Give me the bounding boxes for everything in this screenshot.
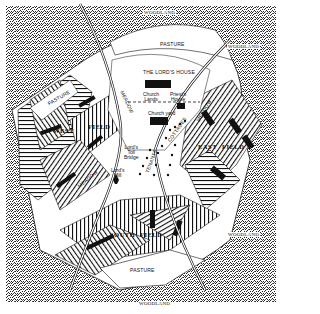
woodland-label-bottom: WOODLAND [138, 301, 171, 306]
woodland-label-bottom-right: WOODLAND [227, 232, 260, 237]
priests-house-label: Priest's House [170, 92, 186, 102]
south-field-label-2: FIELD [140, 232, 162, 239]
church-building [150, 117, 168, 125]
church-lands-label: Church Lands [143, 92, 159, 102]
south-field-label-1: SOUTH [110, 232, 135, 239]
lords-house-building [145, 80, 171, 88]
toll-bridge-label: Lord's Toll Bridge [124, 145, 138, 160]
priests-house-building [177, 103, 185, 109]
pasture-label-top: PASTURE [160, 42, 185, 47]
church-yard-label: Church yard [148, 111, 175, 116]
toll-bridge-line-3: Bridge [124, 155, 138, 160]
west-field-label-1: WEST [53, 128, 74, 135]
east-field-label-1: EAST [198, 144, 217, 151]
pasture-label-bottom: PASTURE [130, 268, 155, 273]
woodland-label-right: WOODLAND [227, 44, 260, 49]
west-field-label-2: FIELD [88, 124, 110, 131]
priests-house-line-2: House [170, 97, 186, 102]
east-field-label-2: FIELD [222, 144, 244, 151]
woodland-label-top: WOODLAND [143, 10, 176, 15]
mill-label: Lord's Mill [111, 168, 124, 178]
lords-house-label: THE LORD'S HOUSE [143, 70, 195, 75]
mill-line-2: Mill [111, 173, 124, 178]
church-lands-line-2: Lands [143, 97, 159, 102]
